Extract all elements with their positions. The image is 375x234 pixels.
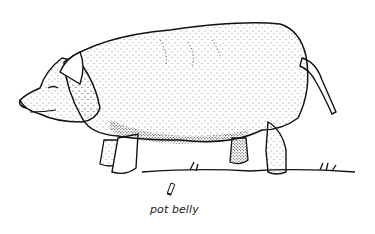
pen-icon — [167, 183, 175, 196]
ground-grass — [142, 162, 355, 172]
figure-caption: pot belly — [150, 203, 199, 216]
pig-illustration — [0, 0, 375, 234]
pig-back-leg-far — [230, 138, 248, 164]
pig-body — [64, 23, 308, 142]
